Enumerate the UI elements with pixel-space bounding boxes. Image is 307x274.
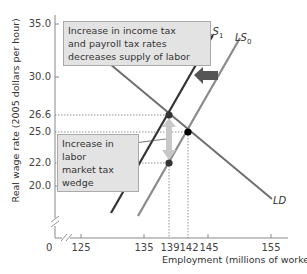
x-axis-title: Employment (millions of workers) bbox=[162, 254, 307, 265]
y-tick-20: 20.0 bbox=[21, 181, 51, 191]
callout-top-line-1: Increase in income tax bbox=[68, 24, 206, 37]
ls0-label-main: LS bbox=[235, 32, 247, 43]
point-new-equilibrium bbox=[165, 111, 172, 118]
labor-market-chart: 35.0 30.0 26.6 25.0 22.0 20.0 0 125 135 … bbox=[0, 0, 307, 274]
x-tick-0: 0 bbox=[46, 243, 52, 253]
ls0-label-sub: 0 bbox=[247, 38, 251, 46]
callout-labor-supply-decrease: Increase in income tax and payroll tax r… bbox=[63, 21, 211, 66]
x-ticks bbox=[81, 234, 271, 238]
ld-label: LD bbox=[273, 195, 286, 206]
y-tick-22: 22.0 bbox=[21, 158, 51, 168]
point-initial-equilibrium bbox=[184, 128, 191, 135]
x-tick-125: 125 bbox=[66, 243, 96, 253]
ls0-label: LS0 bbox=[235, 32, 251, 46]
y-tick-35: 35.0 bbox=[21, 19, 51, 29]
y-tick-25: 25.0 bbox=[21, 127, 51, 137]
x-tick-155: 155 bbox=[256, 243, 286, 253]
y-tick-26-6: 26.6 bbox=[21, 110, 51, 120]
callout-top-line-2: and payroll tax rates bbox=[68, 37, 206, 50]
ls1-label-sub: 1 bbox=[219, 32, 223, 40]
point-after-tax-wage bbox=[165, 159, 172, 166]
x-tick-145: 145 bbox=[194, 243, 224, 253]
callout-top-line-3: decreases supply of labor bbox=[68, 50, 206, 63]
y-tick-30: 30.0 bbox=[21, 72, 51, 82]
y-axis-title: Real wage rate (2005 dollars per hour) bbox=[10, 53, 21, 203]
callout-tax-wedge: Increase in labor market tax wedge bbox=[57, 134, 139, 192]
callout-wedge-line-1: Increase in labor bbox=[62, 137, 134, 163]
callout-wedge-line-2: market tax wedge bbox=[62, 163, 134, 189]
